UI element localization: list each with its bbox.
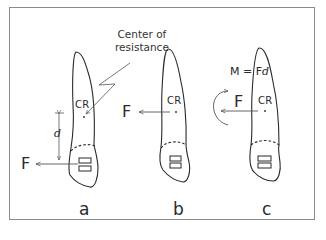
cr-point-c [264, 110, 266, 112]
tooth-b [160, 49, 190, 182]
cr-label-c: CR [258, 96, 272, 106]
cr-point-a [83, 116, 85, 118]
moment-equation: M = Fd [230, 66, 269, 77]
force-label-a: F [21, 156, 30, 172]
panel-label-a: a [79, 201, 89, 218]
tooth-a [69, 52, 98, 187]
center-of-resistance-label: Center of resistance [115, 28, 169, 54]
panel-label-b: b [173, 201, 184, 218]
panel-label-c: c [262, 201, 271, 218]
force-label-b: F [122, 104, 131, 120]
cr-label-b: CR [167, 96, 181, 106]
force-label-c: F [234, 94, 243, 110]
cr-label-a: CR [75, 100, 89, 110]
moment-arc-icon [214, 91, 228, 125]
distance-label: d [54, 128, 61, 139]
cr-point-b [175, 111, 177, 113]
